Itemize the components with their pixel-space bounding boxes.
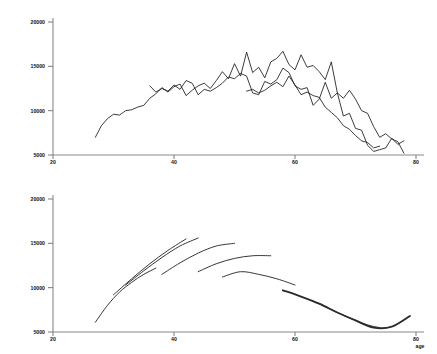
y-tick-label: 5000 — [33, 329, 45, 335]
top-tick-marks — [48, 22, 416, 159]
top-chart-svg: 5000100001500020000 20406080 — [0, 0, 437, 177]
y-tick-label: 15000 — [31, 63, 46, 69]
age-profile-line — [95, 51, 404, 153]
x-tick-label: 40 — [171, 159, 177, 165]
x-tick-label: 60 — [292, 336, 298, 342]
x-axis-title: age — [416, 343, 425, 349]
x-tick-label: 60 — [292, 159, 298, 165]
x-tick-label: 20 — [50, 159, 56, 165]
top-axis-lines — [53, 18, 424, 155]
y-tick-label: 20000 — [31, 196, 46, 202]
bottom-y-tick-labels: 5000100001500020000 — [31, 196, 46, 335]
cohort-curve — [126, 238, 199, 285]
cohort-curve — [198, 256, 271, 272]
bottom-series-group — [95, 238, 410, 328]
age-profile-line — [150, 68, 404, 151]
bottom-chart-panel: 5000100001500020000 20406080 age — [0, 177, 437, 354]
bottom-x-tick-labels: 20406080 — [50, 336, 419, 342]
top-chart-panel: 5000100001500020000 20406080 — [0, 0, 437, 177]
two-panel-age-profile-figure: 5000100001500020000 20406080 50001000015… — [0, 0, 437, 354]
top-x-tick-labels: 20406080 — [50, 159, 419, 165]
top-series-group — [95, 51, 404, 153]
cohort-curve — [222, 272, 295, 285]
bottom-axis-lines — [53, 195, 424, 332]
y-tick-label: 15000 — [31, 240, 46, 246]
bottom-tick-marks — [48, 199, 416, 336]
bottom-chart-svg: 5000100001500020000 20406080 age — [0, 177, 437, 354]
cohort-curve — [95, 268, 156, 322]
y-tick-label: 10000 — [31, 108, 46, 114]
x-tick-label: 20 — [50, 336, 56, 342]
x-tick-label: 80 — [413, 159, 419, 165]
age-profile-line — [247, 76, 380, 148]
y-tick-label: 5000 — [33, 152, 45, 158]
y-tick-label: 10000 — [31, 285, 46, 291]
x-tick-label: 40 — [171, 336, 177, 342]
x-tick-label: 80 — [413, 336, 419, 342]
y-tick-label: 20000 — [31, 19, 46, 25]
top-chart-axes: 5000100001500020000 20406080 — [31, 18, 424, 165]
top-y-tick-labels: 5000100001500020000 — [31, 19, 46, 158]
cohort-curve — [283, 290, 410, 328]
cohort-curve — [162, 243, 235, 274]
